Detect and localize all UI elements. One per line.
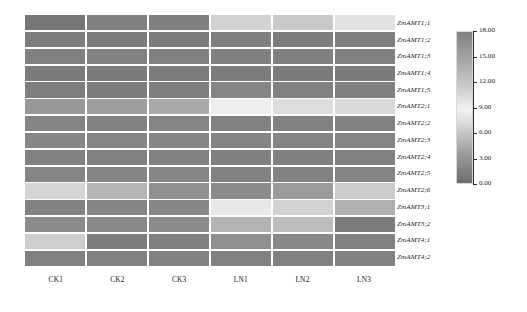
heatmap-cell bbox=[25, 183, 85, 198]
heatmap-cell bbox=[25, 200, 85, 215]
heatmap-cell bbox=[149, 49, 209, 64]
heatmap-cell bbox=[335, 234, 395, 249]
heatmap-cell bbox=[149, 234, 209, 249]
colorbar-tick-label: 12.00 bbox=[479, 78, 495, 85]
heatmap-cell bbox=[149, 133, 209, 148]
heatmap-cell bbox=[25, 82, 85, 97]
heatmap-cell bbox=[273, 234, 333, 249]
heatmap-cell bbox=[149, 82, 209, 97]
heatmap-cell bbox=[25, 15, 85, 30]
heatmap-cell bbox=[87, 49, 147, 64]
heatmap-cell bbox=[211, 32, 271, 47]
heatmap-cell bbox=[211, 133, 271, 148]
heatmap-cell bbox=[211, 251, 271, 266]
heatmap-cell bbox=[335, 32, 395, 47]
row-label: ZmAMT3;2 bbox=[397, 221, 467, 228]
heatmap-cell bbox=[335, 66, 395, 81]
heatmap-cell bbox=[273, 66, 333, 81]
heatmap-cell bbox=[211, 49, 271, 64]
heatmap-cell bbox=[335, 49, 395, 64]
heatmap-cell bbox=[273, 200, 333, 215]
colorbar-tick bbox=[473, 133, 477, 134]
heatmap-cell bbox=[335, 200, 395, 215]
heatmap-cell bbox=[87, 150, 147, 165]
heatmap-plot-area bbox=[25, 15, 395, 266]
heatmap-cell bbox=[211, 167, 271, 182]
heatmap-cell bbox=[149, 167, 209, 182]
heatmap-cell bbox=[25, 167, 85, 182]
heatmap-cell bbox=[273, 167, 333, 182]
heatmap-cell bbox=[149, 15, 209, 30]
colorbar-tick-label: 18.00 bbox=[479, 27, 495, 34]
heatmap-cell bbox=[273, 133, 333, 148]
column-label: CK3 bbox=[148, 275, 210, 284]
heatmap-cell bbox=[335, 15, 395, 30]
column-label: LN3 bbox=[333, 275, 395, 284]
colorbar-tick bbox=[473, 57, 477, 58]
heatmap-cell bbox=[273, 82, 333, 97]
heatmap-cell bbox=[335, 116, 395, 131]
heatmap-cell bbox=[211, 200, 271, 215]
heatmap-cell bbox=[149, 32, 209, 47]
heatmap-cell bbox=[25, 116, 85, 131]
heatmap-cell bbox=[149, 99, 209, 114]
heatmap-cell bbox=[87, 32, 147, 47]
heatmap-cell bbox=[87, 82, 147, 97]
heatmap-cell bbox=[25, 150, 85, 165]
column-label: CK2 bbox=[87, 275, 149, 284]
heatmap-cell bbox=[87, 133, 147, 148]
heatmap-column-label-axis: CK1CK2CK3LN1LN2LN3 bbox=[25, 272, 395, 286]
colorbar-tick-label: 6.00 bbox=[479, 129, 491, 136]
column-label: CK1 bbox=[25, 275, 87, 284]
colorbar-tick-label: 3.00 bbox=[479, 155, 491, 162]
row-label: ZmAMT2;6 bbox=[397, 187, 467, 194]
column-label: LN2 bbox=[272, 275, 334, 284]
heatmap-cell bbox=[273, 150, 333, 165]
heatmap-cell bbox=[335, 133, 395, 148]
colorbar: 18.0015.0012.009.006.003.000.00 bbox=[456, 31, 524, 184]
heatmap-cell bbox=[25, 251, 85, 266]
heatmap-cell bbox=[87, 15, 147, 30]
colorbar-tick bbox=[473, 108, 477, 109]
row-label: ZmAMT4;2 bbox=[397, 254, 467, 261]
heatmap-cell bbox=[335, 99, 395, 114]
heatmap-cell bbox=[273, 251, 333, 266]
heatmap-cell bbox=[25, 49, 85, 64]
heatmap-cell bbox=[211, 116, 271, 131]
heatmap-cell bbox=[211, 150, 271, 165]
heatmap-cell bbox=[273, 15, 333, 30]
heatmap-cell bbox=[335, 150, 395, 165]
heatmap-cell bbox=[25, 66, 85, 81]
heatmap-cell bbox=[211, 82, 271, 97]
colorbar-tick-label: 9.00 bbox=[479, 104, 491, 111]
row-label: ZmAMT3;1 bbox=[397, 204, 467, 211]
heatmap-cell bbox=[25, 234, 85, 249]
heatmap-cell bbox=[87, 66, 147, 81]
heatmap-cell bbox=[335, 82, 395, 97]
heatmap-figure: ZmAMT1;1ZmAMT1;2ZmAMT1;3ZmAMT1;4ZmAMT1;5… bbox=[0, 0, 527, 312]
heatmap-cell bbox=[25, 99, 85, 114]
colorbar-tick bbox=[473, 184, 477, 185]
heatmap-cell bbox=[87, 99, 147, 114]
heatmap-cell bbox=[87, 167, 147, 182]
heatmap-cell bbox=[273, 116, 333, 131]
heatmap-cell bbox=[87, 116, 147, 131]
heatmap-cell bbox=[211, 66, 271, 81]
colorbar-tick bbox=[473, 82, 477, 83]
heatmap-cell bbox=[273, 32, 333, 47]
heatmap-cell bbox=[335, 167, 395, 182]
heatmap-cell bbox=[149, 217, 209, 232]
heatmap-cell-grid bbox=[25, 15, 395, 266]
colorbar-tick-label: 15.00 bbox=[479, 53, 495, 60]
heatmap-cell bbox=[211, 99, 271, 114]
colorbar-gradient bbox=[456, 31, 473, 184]
colorbar-tick bbox=[473, 31, 477, 32]
heatmap-cell bbox=[211, 217, 271, 232]
heatmap-cell bbox=[87, 251, 147, 266]
heatmap-cell bbox=[335, 217, 395, 232]
heatmap-cell bbox=[149, 150, 209, 165]
row-label: ZmAMT4;1 bbox=[397, 237, 467, 244]
heatmap-cell bbox=[335, 183, 395, 198]
heatmap-cell bbox=[273, 49, 333, 64]
heatmap-cell bbox=[273, 183, 333, 198]
